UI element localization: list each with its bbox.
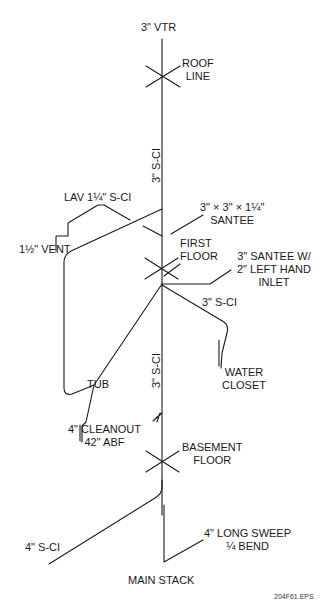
long-sweep-pipe [164, 505, 203, 562]
santee-label-1: 3" × 3" × 1¼" [200, 201, 264, 214]
water-closet-label-2: CLOSET [222, 379, 266, 392]
stack-upper-label: 3" S-CI [150, 148, 162, 183]
santee-leader [143, 215, 203, 236]
santee-label: 3" × 3" × 1¼" SANTEE [200, 201, 264, 227]
cleanout-label-1: 4" CLEANOUT [68, 423, 141, 436]
santee-inlet-pipe [162, 270, 231, 284]
santee-inlet-label-1: 3" SANTEE W/ [237, 250, 311, 263]
wc-branch-label: 3" S-CI [202, 296, 237, 309]
santee-inlet-label-3: INLET [237, 276, 311, 289]
cleanout-marker [153, 413, 162, 422]
santee-label-2: SANTEE [200, 214, 264, 227]
building-drain-pipe [49, 480, 162, 564]
water-closet-label: WATER CLOSET [222, 366, 266, 392]
basement-floor-label-1: BASEMENT [182, 441, 243, 454]
long-sweep-label: 4" LONG SWEEP ¼ BEND [204, 527, 291, 553]
cleanout-label: 4" CLEANOUT 42" ABF [68, 423, 141, 449]
long-sweep-label-2: ¼ BEND [204, 540, 291, 553]
roof-line-label: ROOF LINE [182, 57, 214, 83]
roof-line-label-1: ROOF [182, 57, 214, 70]
roof-line-marker [146, 66, 180, 87]
first-floor-label-1: FIRST [180, 237, 218, 250]
santee-inlet-label-2: 2" LEFT HAND [237, 263, 311, 276]
long-sweep-label-1: 4" LONG SWEEP [204, 527, 291, 540]
riser-diagram [0, 0, 333, 607]
vent-label: 1½" VENT [19, 243, 71, 256]
first-floor-label: FIRST FLOOR [180, 237, 218, 263]
basement-floor-label: BASEMENT FLOOR [182, 441, 243, 467]
tub-label: TUB [87, 378, 109, 391]
vtr-label: 3" VTR [141, 21, 176, 34]
main-stack-label: MAIN STACK [128, 574, 194, 587]
basement-floor-label-2: FLOOR [182, 454, 243, 467]
building-drain-label: 4" S-CI [25, 541, 60, 554]
first-floor-label-2: FLOOR [180, 250, 218, 263]
file-id-label: 204F61.EPS [274, 590, 314, 603]
lav-branch-pipe [64, 209, 162, 394]
roof-line-label-2: LINE [182, 70, 214, 83]
santee-inlet-label: 3" SANTEE W/ 2" LEFT HAND INLET [237, 250, 311, 289]
cleanout-label-2: 42" ABF [68, 436, 141, 449]
stack-lower-label: 3" S-CI [150, 353, 162, 388]
water-closet-label-1: WATER [222, 366, 266, 379]
lav-label: LAV 1¼" S-CI [64, 191, 131, 204]
